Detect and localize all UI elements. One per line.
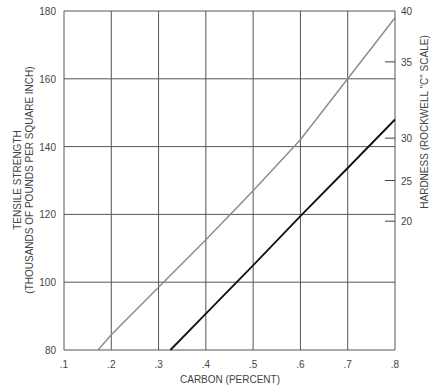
y2-tick-label: 25 <box>401 176 413 187</box>
y-tick-label: 180 <box>39 6 56 17</box>
hardness-curve <box>170 120 395 351</box>
x-tick-label: .5 <box>249 359 258 370</box>
y2-axis-label: HARDNESS (ROCKWELL "C" SCALE) <box>419 35 430 208</box>
x-tick-label: .4 <box>202 359 211 370</box>
chart: .1.2.3.4.5.6.7.8 80100120140160180 40353… <box>0 0 436 388</box>
y2-tick-labels: 4035302520 <box>401 6 413 227</box>
y-tick-label: 160 <box>39 74 56 85</box>
x-tick-label: .2 <box>107 359 116 370</box>
x-tick-labels: .1.2.3.4.5.6.7.8 <box>60 359 400 370</box>
y2-tick-label: 30 <box>401 133 413 144</box>
y2-tick-label: 35 <box>401 57 413 68</box>
x-tick-label: .6 <box>296 359 305 370</box>
y2-tick-label: 20 <box>401 216 413 227</box>
y-tick-label: 100 <box>39 277 56 288</box>
x-tick-label: .3 <box>154 359 163 370</box>
y-tick-label: 80 <box>45 345 57 356</box>
x-axis-label: CARBON (PERCENT) <box>180 374 280 385</box>
y-tick-label: 120 <box>39 209 56 220</box>
x-tick-label: .1 <box>60 359 69 370</box>
y-axis-label-line2: (THOUSANDS OF POUNDS PER SQUARE INCH) <box>24 66 35 293</box>
tensile-strength-curve <box>98 18 395 350</box>
y-axis-label-line1: TENSILE STRENGTH <box>12 130 23 229</box>
y-tick-labels: 80100120140160180 <box>39 6 56 356</box>
curves <box>98 18 395 350</box>
y2-tick-label: 40 <box>401 6 413 17</box>
y-tick-label: 140 <box>39 142 56 153</box>
grid <box>64 11 395 350</box>
x-tick-label: .8 <box>391 359 400 370</box>
x-tick-label: .7 <box>344 359 353 370</box>
